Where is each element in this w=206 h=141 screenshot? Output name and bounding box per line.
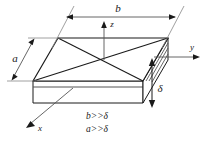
assumption-note-b: b>>δ xyxy=(86,111,109,121)
slab-body xyxy=(33,38,168,103)
dimension-b-arrowhead-right xyxy=(169,14,176,20)
axis-z-arrowhead xyxy=(101,21,107,28)
axis-x-arrowhead xyxy=(26,121,35,128)
figure-container: b a δ z y xyxy=(0,0,206,141)
assumption-note-a: a>>δ xyxy=(86,124,109,134)
axis-x-label: x xyxy=(37,123,42,133)
assumption-notes: b>>δ a>>δ xyxy=(86,111,109,134)
dimension-b-extension-right xyxy=(162,6,184,48)
dimension-b-label: b xyxy=(115,2,121,14)
axis-z-label: z xyxy=(109,19,114,29)
slab-front-face xyxy=(33,81,143,103)
axis-y-arrowhead xyxy=(193,54,200,60)
dimension-delta-label: δ xyxy=(157,82,163,94)
dimension-delta-arrowhead-bottom xyxy=(149,100,155,108)
dimension-a-arrowhead-top xyxy=(28,39,34,46)
dimension-a-arrowhead-bottom xyxy=(12,74,18,81)
slab-diagram: b a δ z y xyxy=(0,0,206,141)
dimension-a-label: a xyxy=(12,52,18,64)
axis-y-label: y xyxy=(189,42,194,52)
